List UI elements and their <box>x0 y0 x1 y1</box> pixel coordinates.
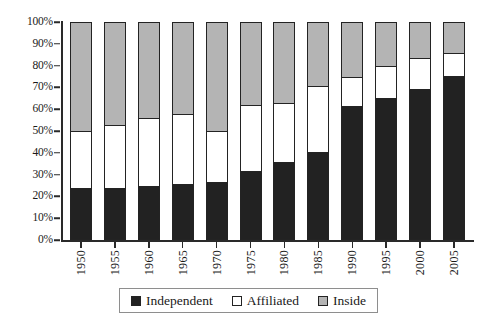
bar-segment-inside[interactable] <box>342 23 362 77</box>
bar-segment-independent[interactable] <box>71 189 91 239</box>
legend-item-inside[interactable]: Inside <box>318 294 366 308</box>
x-axis-tick-slot <box>375 241 397 248</box>
x-axis-tick-slot <box>409 241 431 248</box>
x-axis-tick-mark <box>385 241 387 248</box>
x-axis-tick-mark <box>284 241 286 248</box>
x-axis-tick-slot <box>443 241 465 248</box>
y-axis-tick-mark <box>54 217 60 219</box>
bar-segment-inside[interactable] <box>376 23 396 66</box>
legend-swatch-inside <box>318 296 328 306</box>
stacked-bar[interactable] <box>443 22 465 240</box>
plot-area: 0%10%20%30%40%50%60%70%80%90%100% <box>62 22 473 240</box>
y-axis-tick-mark <box>54 43 60 45</box>
y-axis-tick-mark <box>54 108 60 110</box>
x-axis-tick-label: 1985 <box>312 250 324 275</box>
x-axis-tick-mark <box>216 241 218 248</box>
x-axis-tick-slot <box>172 241 194 248</box>
bar-segment-inside[interactable] <box>410 23 430 58</box>
y-axis-tick-mark <box>54 196 60 198</box>
bar-segment-inside[interactable] <box>241 23 261 105</box>
stacked-bar[interactable] <box>240 22 262 240</box>
y-axis-tick-label: 80% <box>33 60 62 72</box>
bar-segment-independent[interactable] <box>173 185 193 239</box>
bar-segment-inside[interactable] <box>105 23 125 125</box>
y-axis-tick-label: 70% <box>33 82 62 94</box>
stacked-bar[interactable] <box>307 22 329 240</box>
bar-segment-inside[interactable] <box>207 23 227 131</box>
bar-segment-independent[interactable] <box>241 172 261 239</box>
bar-segment-inside[interactable] <box>173 23 193 114</box>
y-axis-tick-label: 30% <box>33 169 62 181</box>
stacked-bar[interactable] <box>273 22 295 240</box>
bar-segment-affiliated[interactable] <box>207 131 227 183</box>
bar-segment-affiliated[interactable] <box>105 125 125 190</box>
legend-item-affiliated[interactable]: Affiliated <box>232 294 299 308</box>
x-axis-tick-slot <box>341 241 363 248</box>
bar-segment-affiliated[interactable] <box>139 118 159 187</box>
y-axis-tick-label: 20% <box>33 191 62 203</box>
bar-segment-affiliated[interactable] <box>241 105 261 172</box>
bar-segment-independent[interactable] <box>308 153 328 239</box>
legend-label: Inside <box>333 294 366 308</box>
x-axis-tick-label: 1965 <box>177 250 189 275</box>
x-axis-tick-label: 1970 <box>211 250 223 275</box>
bar-segment-inside[interactable] <box>139 23 159 118</box>
bar-segment-independent[interactable] <box>207 183 227 239</box>
x-axis-label-slot: 1950 <box>70 250 92 314</box>
stacked-bar[interactable] <box>375 22 397 240</box>
bar-segment-affiliated[interactable] <box>342 77 362 107</box>
y-axis-tick-mark <box>54 239 60 241</box>
bar-segment-independent[interactable] <box>444 77 464 239</box>
bar-slot <box>273 22 295 240</box>
bar-segment-independent[interactable] <box>342 107 362 239</box>
y-axis-tick-mark <box>54 21 60 23</box>
bar-slot <box>172 22 194 240</box>
x-axis-tick-slot <box>104 241 126 248</box>
bar-segment-independent[interactable] <box>105 189 125 239</box>
bar-segment-affiliated[interactable] <box>308 86 328 153</box>
x-axis-tick-mark <box>419 241 421 248</box>
bar-slot <box>375 22 397 240</box>
bar-slot <box>206 22 228 240</box>
y-axis-tick-label: 10% <box>33 212 62 224</box>
x-axis-tick-label: 2005 <box>448 250 460 275</box>
bar-slot <box>307 22 329 240</box>
legend-swatch-affiliated <box>232 296 242 306</box>
bar-segment-independent[interactable] <box>410 90 430 239</box>
stacked-bar[interactable] <box>172 22 194 240</box>
bar-segment-independent[interactable] <box>274 163 294 239</box>
legend-swatch-independent <box>131 296 141 306</box>
bar-segment-affiliated[interactable] <box>173 114 193 185</box>
bar-slot <box>70 22 92 240</box>
y-axis-tick-mark <box>54 87 60 89</box>
bar-segment-affiliated[interactable] <box>71 131 91 189</box>
stacked-bar[interactable] <box>104 22 126 240</box>
stacked-bar[interactable] <box>409 22 431 240</box>
bar-segment-inside[interactable] <box>308 23 328 86</box>
bar-segment-independent[interactable] <box>139 187 159 239</box>
y-axis-tick-label: 40% <box>33 147 62 159</box>
stacked-bar[interactable] <box>70 22 92 240</box>
x-axis-tick-slot <box>206 241 228 248</box>
bar-segment-inside[interactable] <box>274 23 294 103</box>
bar-segment-affiliated[interactable] <box>444 53 464 77</box>
bar-segment-inside[interactable] <box>444 23 464 53</box>
x-axis-tick-mark <box>148 241 150 248</box>
legend-label: Affiliated <box>247 294 299 308</box>
bar-slot <box>409 22 431 240</box>
bar-segment-affiliated[interactable] <box>410 58 430 90</box>
bar-segment-affiliated[interactable] <box>274 103 294 163</box>
bar-slot <box>138 22 160 240</box>
legend-item-independent[interactable]: Independent <box>131 294 213 308</box>
bar-segment-inside[interactable] <box>71 23 91 131</box>
y-axis-tick-label: 100% <box>27 16 62 28</box>
x-axis-tick-slot <box>307 241 329 248</box>
stacked-bar[interactable] <box>341 22 363 240</box>
bar-segment-affiliated[interactable] <box>376 66 396 98</box>
y-axis-tick-label: 50% <box>33 125 62 137</box>
bar-segment-independent[interactable] <box>376 99 396 239</box>
bar-group <box>62 22 473 240</box>
x-axis-tick-mark <box>80 241 82 248</box>
stacked-bar[interactable] <box>206 22 228 240</box>
stacked-bar[interactable] <box>138 22 160 240</box>
